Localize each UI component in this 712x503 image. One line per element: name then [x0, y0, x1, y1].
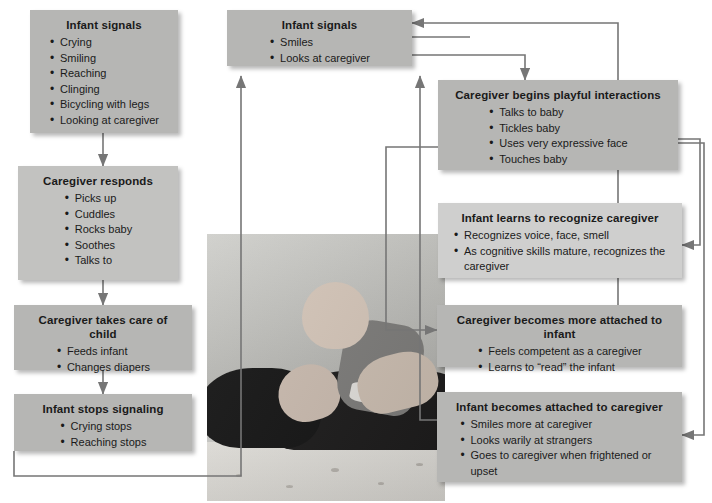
box-title: Infant becomes attached to caregiver	[447, 400, 672, 414]
box-title: Infant signals	[237, 18, 402, 32]
box-caregiver-playful[interactable]: Caregiver begins playful interactions Ta…	[438, 80, 678, 170]
list-item: Tickles baby	[488, 121, 627, 137]
list-item: Goes to caregiver when frightened or ups…	[460, 448, 660, 479]
box-bullet-list: Smiles more at caregiver Looks warily at…	[460, 417, 660, 479]
list-item: Soothes	[64, 238, 132, 254]
list-item: Talks to	[64, 253, 132, 269]
list-item: Looks warily at strangers	[460, 433, 660, 449]
list-item: Looks at caregiver	[269, 51, 370, 67]
box-bullet-list: Talks to baby Tickles baby Uses very exp…	[488, 105, 627, 167]
list-item: Bicycling with legs	[49, 97, 159, 113]
box-bullet-list: Recognizes voice, face, smell As cogniti…	[453, 228, 667, 275]
box-caregiver-attached[interactable]: Caregiver becomes more attached to infan…	[437, 305, 682, 367]
list-item: Cuddles	[64, 207, 132, 223]
list-item: Touches baby	[488, 152, 627, 168]
box-title: Caregiver responds	[28, 174, 168, 188]
list-item: Recognizes voice, face, smell	[453, 228, 667, 244]
box-bullet-list: Smiles Looks at caregiver	[269, 35, 370, 66]
box-title: Caregiver takes care of child	[24, 313, 182, 341]
list-item: Crying	[49, 35, 159, 51]
list-item: Looking at caregiver	[49, 113, 159, 129]
box-title: Infant signals	[40, 18, 168, 32]
list-item: Smiles	[269, 35, 370, 51]
box-bullet-list: Crying stops Reaching stops	[60, 419, 147, 450]
box-title: Infant learns to recognize caregiver	[448, 211, 672, 225]
box-infant-recognizes[interactable]: Infant learns to recognize caregiver Rec…	[438, 203, 682, 278]
list-item: Changes diapers	[56, 360, 150, 376]
wire-infant-attached-to-signals	[420, 76, 437, 420]
box-caregiver-responds[interactable]: Caregiver responds Picks up Cuddles Rock…	[18, 166, 178, 280]
list-item: Feels competent as a caregiver	[477, 344, 641, 360]
box-bullet-list: Feeds infant Changes diapers	[56, 344, 150, 375]
box-bullet-list: Feels competent as a caregiver Learns to…	[477, 344, 641, 375]
box-bullet-list: Crying Smiling Reaching Clinging Bicycli…	[49, 35, 159, 128]
list-item: Reaching stops	[60, 435, 147, 451]
list-item: Uses very expressive face	[488, 136, 627, 152]
wire-signals-to-playful	[403, 42, 525, 80]
box-caregiver-takes-care[interactable]: Caregiver takes care of child Feeds infa…	[14, 305, 192, 370]
list-item: Smiles more at caregiver	[460, 417, 660, 433]
list-item: Crying stops	[60, 419, 147, 435]
box-infant-stops-signaling[interactable]: Infant stops signaling Crying stops Reac…	[14, 394, 192, 451]
box-infant-signals-left[interactable]: Infant signals Crying Smiling Reaching C…	[30, 10, 178, 133]
attachment-cycle-diagram: Infant signals Crying Smiling Reaching C…	[0, 0, 712, 503]
list-item: Reaching	[49, 66, 159, 82]
list-item: Talks to baby	[488, 105, 627, 121]
box-title: Infant stops signaling	[24, 402, 182, 416]
wire-playful-to-caregiver-attached	[386, 147, 438, 330]
list-item: Picks up	[64, 191, 132, 207]
box-title: Caregiver begins playful interactions	[448, 88, 668, 102]
list-item: Feeds infant	[56, 344, 150, 360]
box-bullet-list: Picks up Cuddles Rocks baby Soothes Talk…	[64, 191, 132, 269]
list-item: Smiling	[49, 51, 159, 67]
list-item: Learns to “read” the infant	[477, 360, 641, 376]
list-item: Rocks baby	[64, 222, 132, 238]
box-title: Caregiver becomes more attached to infan…	[447, 313, 672, 341]
box-infant-attached[interactable]: Infant becomes attached to caregiver Smi…	[437, 392, 682, 482]
list-item: As cognitive skills mature, recognizes t…	[453, 244, 667, 275]
box-infant-signals-top[interactable]: Infant signals Smiles Looks at caregiver	[227, 10, 412, 66]
list-item: Clinging	[49, 82, 159, 98]
